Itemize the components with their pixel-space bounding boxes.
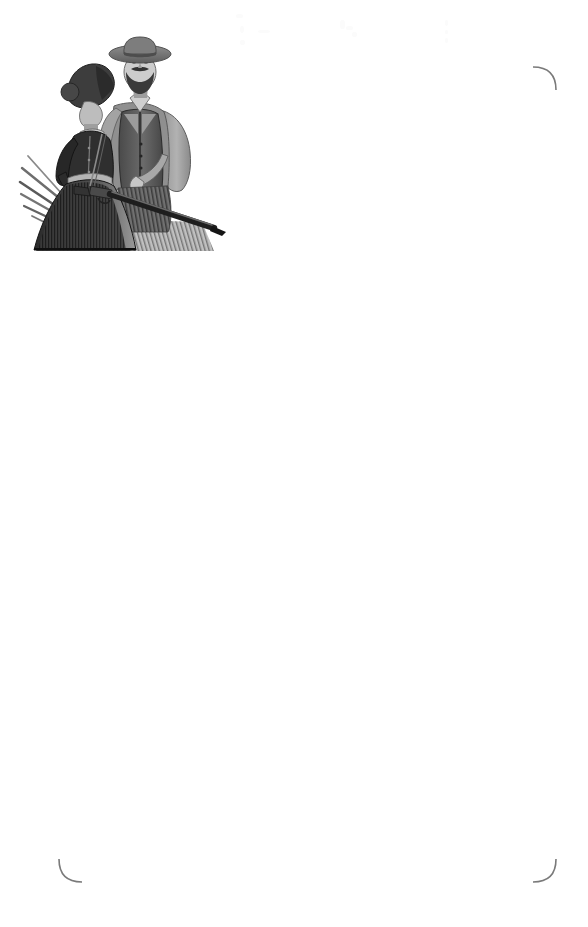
bodice-button [88,171,91,174]
vest-button [140,143,143,146]
scan-speck [240,40,245,45]
scan-speck [346,26,353,30]
vest-button [140,167,143,170]
scan-speck [236,14,243,18]
scan-speck [352,32,357,37]
scan-speck [258,30,270,33]
scan-speck [445,20,448,26]
bodice-button [88,159,91,162]
vest-button [140,155,143,158]
scan-speck [340,20,345,29]
frame-corner-bottom-left [59,859,82,882]
scan-speck [445,38,448,43]
frame-corner-top-right [533,67,556,90]
page-canvas: Frontier couple with rifle [0,0,588,927]
rifle-muzzle [210,226,226,236]
scan-speck [445,30,448,34]
frame-corner-bottom-right [533,859,556,882]
frontier-couple-illustration: Frontier couple with rifle [18,36,230,255]
bodice-button [88,147,91,150]
woman-hair-bun [61,83,79,101]
man-hat-crown [124,37,156,54]
scan-speck [240,26,244,33]
